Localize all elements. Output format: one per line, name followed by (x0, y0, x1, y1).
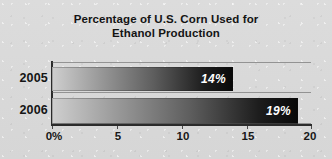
x-tick-label-20: 20 (288, 130, 332, 142)
plot-rule-top (52, 62, 311, 63)
x-tick-mark-20 (311, 126, 312, 129)
bar-2005: 14% (52, 67, 233, 91)
chart-title-line-1: Percentage of U.S. Corn Used for (0, 12, 332, 26)
chart-title-line-2: Ethanol Production (0, 26, 332, 40)
x-tick-label-10: 10 (161, 130, 205, 142)
x-tick-mark-0 (52, 126, 53, 129)
x-tick-mark-5 (117, 126, 118, 129)
chart-figure: Percentage of U.S. Corn Used for Ethanol… (0, 0, 332, 159)
bar-value-label-2006: 19% (266, 104, 291, 118)
chart-title: Percentage of U.S. Corn Used for Ethanol… (0, 12, 332, 40)
bar-2006: 19% (52, 98, 298, 124)
x-tick-mark-15 (247, 126, 248, 129)
plot-rule-middle (52, 92, 311, 93)
x-tick-mark-10 (182, 126, 183, 129)
plot-area: 14% 19% (52, 62, 311, 125)
x-tick-label-5: 5 (96, 130, 140, 142)
bar-value-label-2005: 14% (201, 72, 226, 86)
category-label-2006: 2006 (8, 103, 48, 117)
x-tick-label-15: 15 (226, 130, 270, 142)
x-tick-label-0: 0% (32, 130, 76, 142)
plot-rule-bottom (52, 123, 311, 124)
category-label-2005: 2005 (8, 71, 48, 85)
